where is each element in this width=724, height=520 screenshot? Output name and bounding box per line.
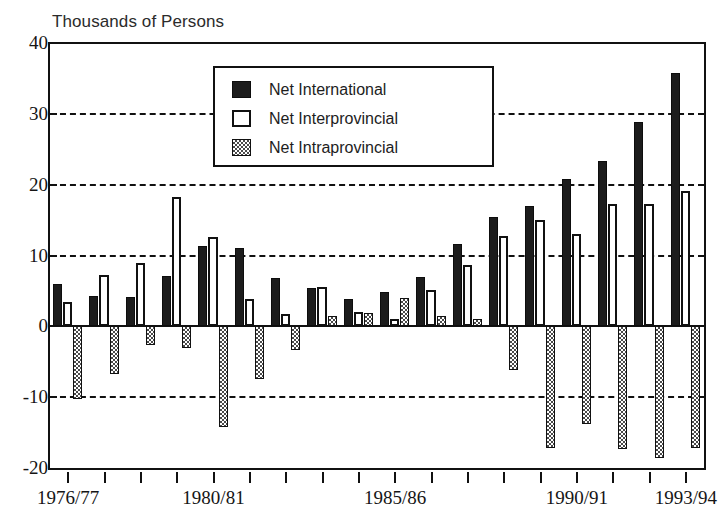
bar: [618, 326, 627, 449]
bar: [328, 316, 337, 327]
bar: [245, 299, 254, 326]
bar: [644, 204, 653, 327]
x-axis-tick-label: 1980/81: [182, 487, 244, 509]
bar: [535, 220, 544, 326]
bar: [416, 277, 425, 326]
bar: [390, 319, 399, 327]
legend-item-label: Net Interprovincial: [269, 110, 398, 128]
bar: [63, 302, 72, 326]
bar: [146, 326, 155, 345]
x-axis-tick-mark: [576, 472, 578, 483]
y-axis-tick-label: 40: [4, 32, 48, 54]
bar: [364, 313, 373, 326]
bar: [182, 326, 191, 348]
bar: [126, 297, 135, 326]
x-axis-tick-mark: [249, 472, 251, 483]
x-axis-tick-mark: [213, 472, 215, 483]
bar: [437, 316, 446, 327]
bar: [681, 191, 690, 326]
chart-title: Thousands of Persons: [52, 12, 224, 32]
x-axis-tick-label: 1990/91: [546, 487, 608, 509]
x-axis-tick-label: 1993/94: [655, 487, 717, 509]
x-axis-tick-mark: [394, 472, 396, 483]
bar: [73, 326, 82, 399]
bar: [271, 278, 280, 326]
bar: [691, 326, 700, 448]
x-axis-tick-label: 1976/77: [37, 487, 99, 509]
x-axis-tick-mark: [431, 472, 433, 483]
y-axis-tick-label: 0: [4, 315, 48, 337]
bar: [582, 326, 591, 424]
bar: [255, 326, 264, 379]
bar: [198, 246, 207, 326]
bar: [162, 276, 171, 326]
y-axis-tick-mark: [48, 255, 57, 257]
bar: [671, 73, 680, 326]
x-axis-tick-mark: [685, 472, 687, 483]
bar: [136, 263, 145, 326]
bar: [208, 237, 217, 326]
bar: [307, 288, 316, 326]
x-axis-tick-label: 1985/86: [364, 487, 426, 509]
legend-item-label: Net Intraprovincial: [269, 139, 398, 157]
x-axis-tick-mark: [140, 472, 142, 483]
bar: [89, 296, 98, 326]
bar: [380, 292, 389, 327]
bar: [509, 326, 518, 369]
bar: [354, 312, 363, 326]
x-axis-line: [48, 468, 706, 470]
bar: [572, 234, 581, 326]
bar: [473, 319, 482, 327]
x-axis-tick-mark: [612, 472, 614, 483]
bar: [235, 248, 244, 326]
bar: [400, 298, 409, 326]
x-axis-tick-mark: [649, 472, 651, 483]
legend-item[interactable]: Net International: [232, 75, 492, 104]
plot-top-border: [48, 42, 706, 44]
bar: [317, 287, 326, 327]
y-axis-tick-mark: [48, 184, 57, 186]
x-axis-tick-mark: [322, 472, 324, 483]
legend-item[interactable]: Net Interprovincial: [232, 104, 492, 133]
bar: [562, 179, 571, 326]
legend-item[interactable]: Net Intraprovincial: [232, 133, 492, 162]
x-axis-tick-mark: [358, 472, 360, 483]
legend-swatch-icon: [232, 81, 251, 98]
bar: [608, 204, 617, 327]
x-axis-tick-mark: [467, 472, 469, 483]
y-axis-tick-label: 20: [4, 174, 48, 196]
bar: [426, 290, 435, 327]
migration-bar-chart: Thousands of Persons 403020100-10-20 197…: [0, 0, 724, 520]
bar: [219, 326, 228, 427]
bar: [53, 284, 62, 327]
bar: [525, 206, 534, 326]
y-axis-tick-mark: [48, 396, 57, 398]
legend-item-label: Net International: [269, 81, 386, 99]
y-axis-tick-label: -20: [4, 457, 48, 479]
x-axis-tick-mark: [176, 472, 178, 483]
x-axis-tick-mark: [67, 472, 69, 483]
y-axis-tick-label: 10: [4, 245, 48, 267]
bar: [489, 217, 498, 326]
bar: [463, 265, 472, 327]
bar: [172, 197, 181, 326]
bar: [546, 326, 555, 448]
gridline: [50, 396, 704, 398]
y-axis-tick-mark: [48, 113, 57, 115]
x-axis-tick-mark: [285, 472, 287, 483]
plot-right-border: [704, 42, 706, 470]
x-axis-tick-mark: [104, 472, 106, 483]
bar: [344, 299, 353, 327]
legend-swatch-icon: [232, 110, 251, 127]
bar: [99, 275, 108, 326]
bar: [655, 326, 664, 458]
y-axis-tick-label: -10: [4, 386, 48, 408]
legend-swatch-icon: [232, 139, 251, 156]
x-axis-tick-mark: [540, 472, 542, 483]
bar: [598, 161, 607, 326]
y-axis-tick-label: 30: [4, 103, 48, 125]
bar: [281, 314, 290, 326]
bar: [634, 122, 643, 327]
x-axis-tick-mark: [503, 472, 505, 483]
bar: [110, 326, 119, 374]
